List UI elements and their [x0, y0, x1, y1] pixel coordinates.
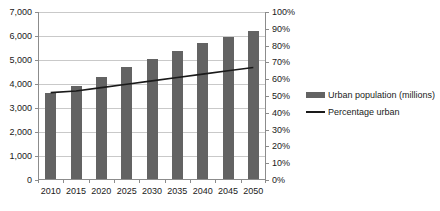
legend-item-percentage-urban: Percentage urban [306, 103, 438, 120]
x-axis-tick [190, 180, 191, 183]
y-axis-left-label: 1,000 [0, 151, 32, 161]
y-axis-left-label: 2,000 [0, 127, 32, 137]
y-axis-left-label: 4,000 [0, 79, 32, 89]
x-axis-label: 2030 [139, 186, 165, 196]
y-axis-right-label: 50% [272, 91, 306, 101]
x-axis-tick [241, 180, 242, 183]
y-axis-right-tick [266, 79, 269, 80]
x-axis-label: 2035 [164, 186, 190, 196]
y-axis-left-label: 5,000 [0, 55, 32, 65]
plot-area [38, 12, 266, 180]
x-axis-label: 2015 [63, 186, 89, 196]
x-axis-tick [89, 180, 90, 183]
chart-legend: Urban population (millions) Percentage u… [306, 86, 438, 120]
y-axis-right-tick [266, 96, 269, 97]
y-axis-right-tick [266, 12, 269, 13]
y-axis-right-label: 0% [272, 175, 306, 185]
x-axis-tick [215, 180, 216, 183]
y-axis-left-label: 7,000 [0, 7, 32, 17]
y-axis-right-label: 100% [272, 7, 306, 17]
x-axis-tick [165, 180, 166, 183]
chart-container: 01,0002,0003,0004,0005,0006,0007,000 0%1… [0, 0, 440, 211]
x-axis-tick [265, 180, 266, 183]
y-axis-right-tick [266, 113, 269, 114]
y-axis-right-tick [266, 180, 269, 181]
y-axis-right-tick [266, 130, 269, 131]
x-axis-tick [114, 180, 115, 183]
y-axis-right-tick [266, 29, 269, 30]
legend-label-percentage-urban: Percentage urban [328, 107, 400, 117]
x-axis-tick [38, 180, 39, 183]
y-axis-right-label: 10% [272, 158, 306, 168]
x-axis-label: 2010 [38, 186, 64, 196]
y-axis-left-label: 6,000 [0, 31, 32, 41]
bar-swatch-icon [306, 92, 325, 98]
y-axis-right-label: 30% [272, 125, 306, 135]
y-axis-right-label: 70% [272, 57, 306, 67]
y-axis-right-tick [266, 146, 269, 147]
y-axis-right-label: 60% [272, 74, 306, 84]
x-axis-label: 2040 [190, 186, 216, 196]
x-axis-tick [139, 180, 140, 183]
y-axis-right-tick [266, 163, 269, 164]
legend-label-urban-population: Urban population (millions) [328, 90, 435, 100]
line-series-percentage-urban [38, 12, 266, 180]
x-axis-label: 2020 [88, 186, 114, 196]
x-axis-label: 2045 [215, 186, 241, 196]
y-axis-right-label: 90% [272, 24, 306, 34]
y-axis-left-label: 3,000 [0, 103, 32, 113]
x-axis-label: 2050 [240, 186, 266, 196]
x-axis-label: 2025 [114, 186, 140, 196]
y-axis-left-label: 0 [0, 175, 32, 185]
x-axis-tick [63, 180, 64, 183]
y-axis-right-label: 20% [272, 141, 306, 151]
y-axis-right-tick [266, 46, 269, 47]
y-axis-right-tick [266, 62, 269, 63]
legend-item-urban-population: Urban population (millions) [306, 86, 438, 103]
y-axis-right-label: 80% [272, 41, 306, 51]
line-swatch-icon [306, 111, 325, 113]
y-axis-right-label: 40% [272, 108, 306, 118]
